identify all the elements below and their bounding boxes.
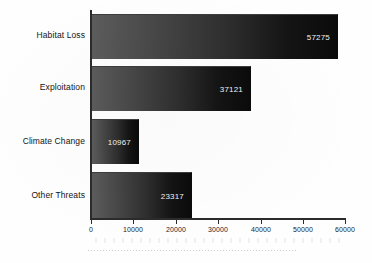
bar-habitat-loss[interactable]: 57275 bbox=[92, 14, 338, 59]
x-tick-label-3: 30000 bbox=[208, 226, 228, 233]
bar-value-label-2: 10967 bbox=[108, 138, 131, 147]
bar-value-label-0: 57275 bbox=[307, 33, 330, 42]
x-tick-mark-1 bbox=[133, 220, 134, 224]
bar-other-threats[interactable]: 23317 bbox=[92, 172, 192, 218]
x-tick-label-0: 0 bbox=[89, 226, 93, 233]
bar-value-label-3: 23317 bbox=[161, 191, 184, 200]
x-tick-mark-0 bbox=[91, 220, 92, 224]
bar-climate-change[interactable]: 10967 bbox=[92, 119, 139, 164]
y-axis-label-1: Exploitation bbox=[40, 82, 85, 92]
x-tick-mark-2 bbox=[176, 220, 177, 224]
y-axis-label-3: Other Threats bbox=[31, 190, 85, 200]
x-tick-label-2: 20000 bbox=[166, 226, 186, 233]
scan-artifact-smudge bbox=[95, 238, 345, 243]
x-tick-mark-6 bbox=[345, 220, 346, 224]
x-tick-label-6: 60000 bbox=[335, 226, 355, 233]
x-tick-label-1: 10000 bbox=[123, 226, 143, 233]
x-tick-label-5: 50000 bbox=[293, 226, 313, 233]
y-axis-label-2: Climate Change bbox=[23, 136, 85, 146]
bar-exploitation[interactable]: 37121 bbox=[92, 66, 251, 111]
x-tick-mark-4 bbox=[261, 220, 262, 224]
bar-chart: Habitat Loss Exploitation Climate Change… bbox=[0, 0, 372, 263]
x-tick-mark-5 bbox=[303, 220, 304, 224]
bar-value-label-1: 37121 bbox=[220, 85, 243, 94]
scan-artifact-dotted-line bbox=[88, 250, 298, 251]
x-tick-label-4: 40000 bbox=[251, 226, 271, 233]
y-axis-label-0: Habitat Loss bbox=[37, 30, 85, 40]
x-tick-mark-3 bbox=[218, 220, 219, 224]
